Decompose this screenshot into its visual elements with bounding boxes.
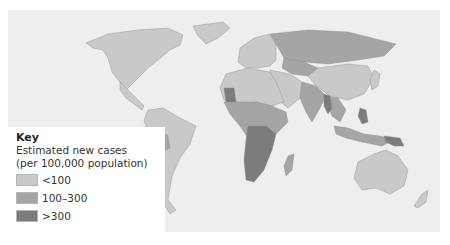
region-png <box>384 136 404 146</box>
legend-subtitle-line1: Estimated new cases <box>16 144 159 157</box>
legend-item-mid: 100–300 <box>16 190 159 205</box>
region-greenland <box>193 22 230 44</box>
legend-item-high: >300 <box>16 208 159 223</box>
region-mauritania <box>224 88 236 102</box>
legend-item-low: <100 <box>16 172 159 187</box>
legend-label-high: >300 <box>42 210 71 222</box>
legend-swatch-mid <box>16 192 38 204</box>
legend-swatch-high <box>16 210 38 222</box>
legend-label-low: <100 <box>42 174 71 186</box>
region-europe <box>238 34 276 68</box>
region-australia <box>354 150 408 194</box>
legend-swatch-low <box>16 174 38 186</box>
region-north-america <box>86 28 183 90</box>
region-southern-africa <box>244 126 276 182</box>
region-philippines <box>358 108 368 124</box>
legend-label-mid: 100–300 <box>42 192 87 204</box>
region-new-zealand <box>414 190 428 208</box>
region-madagascar <box>284 154 294 176</box>
legend-subtitle-line2: (per 100,000 population) <box>16 157 159 170</box>
region-central-america <box>120 82 144 110</box>
legend-title: Key <box>16 131 159 144</box>
map-legend: Key Estimated new cases (per 100,000 pop… <box>8 127 165 232</box>
